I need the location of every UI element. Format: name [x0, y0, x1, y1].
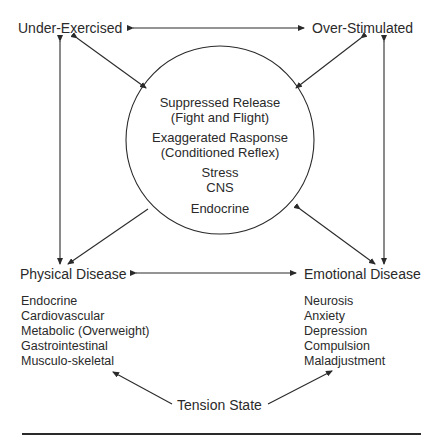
circle-line: Endocrine [125, 201, 315, 216]
emotional-disease-list: Neurosis Anxiety Depression Compulsion M… [304, 294, 385, 369]
circle-line: (Conditioned Reflex) [125, 145, 315, 160]
arrow-ue-circle [77, 38, 146, 88]
list-item: Depression [304, 324, 385, 339]
node-emotional-disease: Emotional Disease [304, 266, 421, 282]
arrow-circle-pd [68, 209, 148, 264]
node-physical-disease: Physical Disease [20, 266, 127, 282]
list-item: Gastrointestinal [21, 339, 150, 354]
arrow-ts-pd [113, 372, 172, 404]
physical-disease-list: Endocrine Cardiovascular Metabolic (Over… [21, 294, 150, 369]
arrow-circle-ed [300, 209, 375, 264]
center-circle-text: Suppressed Release (Fight and Flight) Ex… [125, 95, 315, 216]
list-item: Musculo-skeletal [21, 354, 150, 369]
list-item: Cardiovascular [21, 309, 150, 324]
list-item: Anxiety [304, 309, 385, 324]
circle-line: Stress [125, 165, 315, 180]
circle-line: (Fight and Flight) [125, 110, 315, 125]
arrow-os-circle [296, 38, 361, 88]
circle-line: Suppressed Release [125, 95, 315, 110]
node-tension-state: Tension State [177, 397, 262, 413]
list-item: Compulsion [304, 339, 385, 354]
list-item: Metabolic (Overweight) [21, 324, 150, 339]
node-under-exercised: Under-Exercised [18, 20, 122, 36]
list-item: Neurosis [304, 294, 385, 309]
diagram-connectors [0, 0, 444, 443]
node-over-stimulated: Over-Stimulated [312, 20, 413, 36]
arrow-ts-ed [268, 371, 332, 404]
circle-line: Exaggerated Rasponse [125, 130, 315, 145]
list-item: Maladjustment [304, 354, 385, 369]
circle-line: CNS [125, 180, 315, 195]
list-item: Endocrine [21, 294, 150, 309]
